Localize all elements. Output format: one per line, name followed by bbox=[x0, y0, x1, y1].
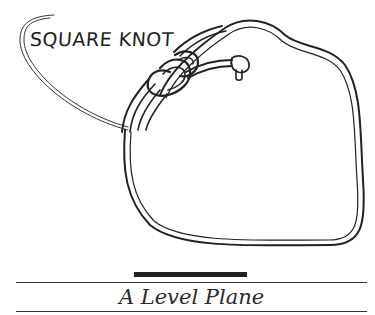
caption-rule-bottom bbox=[16, 311, 367, 312]
square-knot-illustration: SQUARE KNOT bbox=[0, 0, 375, 265]
caption-title: A Level Plane bbox=[0, 283, 375, 311]
heavy-divider-bar bbox=[134, 272, 247, 277]
knot-label: SQUARE KNOT bbox=[29, 28, 174, 50]
